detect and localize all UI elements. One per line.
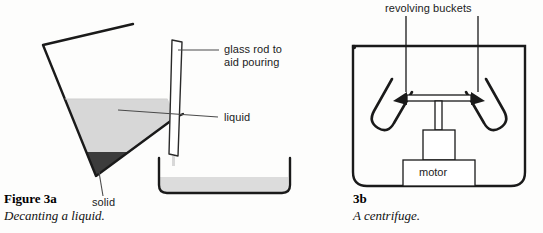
label-glass-rod: glass rod to aid pouring: [224, 43, 282, 69]
glass-rod-group: [169, 40, 182, 166]
rotor-shaft: [435, 101, 442, 130]
leader-lines-b: [406, 16, 478, 92]
rotor-arrow-right: [471, 92, 485, 105]
liquid-drip: [172, 156, 175, 166]
caption-title-figure-3b: 3b: [353, 191, 367, 207]
label-motor: motor: [419, 166, 447, 178]
beaker-solid-sediment: [62, 152, 131, 176]
glass-rod: [169, 40, 182, 156]
beaker-liquid-fill: [30, 99, 190, 189]
leader-solid: [99, 172, 103, 196]
caption-title-figure-3a: Figure 3a: [4, 191, 57, 207]
rotor-arm-horizontal: [407, 95, 471, 101]
label-glass-rod-line1: glass rod to: [224, 43, 282, 55]
label-revolving-buckets: revolving buckets: [385, 2, 472, 15]
figure-canvas: glass rod to aid pouring liquid solid Fi…: [0, 0, 543, 233]
casing-corner-dot: [352, 45, 356, 49]
diagram-svg: [0, 0, 543, 233]
caption-subtitle-figure-3b: A centrifuge.: [353, 208, 420, 224]
receiving-dish-group: [159, 158, 290, 193]
drive-column: [423, 130, 455, 160]
centrifuge-group: [352, 45, 525, 186]
label-liquid: liquid: [224, 111, 250, 124]
beaker-group: [30, 24, 190, 189]
dish-liquid: [160, 177, 288, 192]
rotor-arrow-left: [393, 92, 407, 105]
label-glass-rod-line2: aid pouring: [224, 56, 280, 68]
caption-subtitle-figure-3a: Decanting a liquid.: [4, 208, 105, 224]
